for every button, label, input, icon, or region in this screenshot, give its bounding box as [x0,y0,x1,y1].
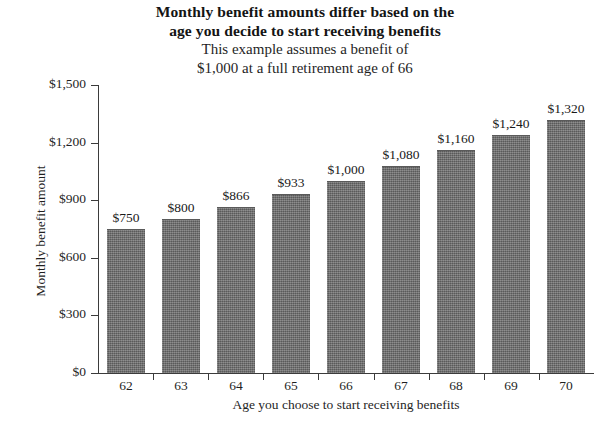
bar [492,135,530,373]
bar [437,150,475,373]
x-axis-tick-label: 70 [538,378,594,394]
bar [162,219,200,373]
bar [272,194,310,373]
y-axis-tick [91,200,98,201]
y-axis-tick [91,85,98,86]
x-axis-tick-label: 64 [208,378,264,394]
bar-value-label: $1,080 [365,147,437,163]
x-axis-tick-label: 66 [318,378,374,394]
chart-subtitle-line-1: This example assumes a benefit of [0,40,610,59]
x-axis-tick-label: 65 [263,378,319,394]
x-axis-tick-label: 69 [483,378,539,394]
y-axis-tick [91,373,98,374]
y-axis-tick-label: $1,200 [6,134,86,150]
x-axis-label: Age you choose to start receiving benefi… [98,397,594,413]
plot-area: $750$800$866$933$1,000$1,080$1,160$1,240… [98,85,594,373]
bar [547,120,585,373]
y-axis-tick-label: $1,500 [6,76,86,92]
bar [382,166,420,373]
chart-title-line-2: age you decide to start receiving benefi… [0,21,610,40]
x-axis-tick-label: 62 [98,378,154,394]
y-axis-tick-label: $600 [6,249,86,265]
bar-value-label: $1,000 [310,162,382,178]
bar [327,181,365,373]
bar [217,207,255,373]
bar [107,229,145,373]
y-axis-tick [91,315,98,316]
y-axis-tick-label: $0 [6,364,86,380]
bar-value-label: $1,160 [420,131,492,147]
chart-title-line-1: Monthly benefit amounts differ based on … [0,2,610,21]
x-axis-tick-label: 68 [428,378,484,394]
bar-value-label: $1,240 [475,116,547,132]
x-axis-tick-label: 67 [373,378,429,394]
x-axis-tick-label: 63 [153,378,209,394]
chart-title-block: Monthly benefit amounts differ based on … [0,2,610,78]
y-axis-tick-label: $300 [6,306,86,322]
chart-subtitle-line-2: $1,000 at a full retirement age of 66 [0,59,610,78]
x-axis-line [98,373,594,374]
y-axis-tick [91,258,98,259]
bar-value-label: $1,320 [530,101,602,117]
y-axis-tick [91,143,98,144]
y-axis-tick-label: $900 [6,191,86,207]
chart-figure: Monthly benefit amounts differ based on … [0,0,610,425]
